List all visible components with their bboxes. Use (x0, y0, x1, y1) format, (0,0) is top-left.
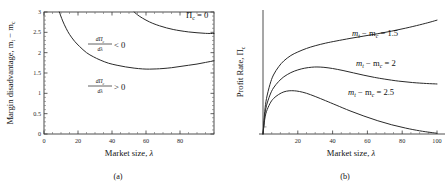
derivative-negative-relation: < 0 (114, 40, 125, 50)
panel-b-svg: 20406080100 Market size, λ Profit Rate, … (223, 0, 447, 189)
panel-a-x-tick-label: 20 (75, 137, 81, 144)
panel-a-y-axis-title: Margin disadvantage, mt − mc (5, 21, 16, 125)
panel-a-curves (59, 12, 214, 69)
panel-b-caption: (b) (340, 172, 350, 181)
panel-a-x-tick-label: 60 (143, 137, 149, 144)
derivative-negative-numerator: dΠc (96, 36, 105, 44)
panel-a-x-tick-label: 40 (109, 137, 115, 144)
panel-a-curve (59, 12, 214, 69)
derivative-negative-denominator: dλ (97, 46, 103, 52)
panel-b-x-axis-title: Market size, λ (327, 148, 376, 158)
panel-a-x-ticks (44, 12, 214, 134)
panel-b-x-ticks (263, 127, 437, 134)
panel-b-x-tick-label: 20 (295, 137, 301, 144)
panel-b-y-axis-title: Profit Rate, Πc (235, 46, 246, 97)
panel-b-x-tick-label: 100 (432, 137, 441, 144)
derivative-negative-label: dΠc dλ < 0 (88, 36, 125, 52)
panel-a-x-tick-labels: 020406080 (42, 137, 183, 144)
panel-b-curve (263, 20, 437, 134)
panel-b-curve (263, 67, 437, 134)
panel-a-x-tick-label: 80 (177, 137, 183, 144)
derivative-positive-label: dΠc dλ > 0 (88, 78, 125, 94)
panel-b-x-tick-label: 40 (330, 137, 336, 144)
derivative-positive-numerator: dΠc (96, 78, 105, 86)
panel-b-x-tick-label: 80 (399, 137, 405, 144)
derivative-positive-denominator: dλ (97, 88, 103, 94)
panel-a-x-tick-label: 0 (42, 137, 45, 144)
panel-a-frame (44, 12, 214, 134)
panel-a-svg: 020406080 00.511.522.53 Market size, λ M… (0, 0, 224, 189)
panel-a-y-tick-label: 0 (38, 130, 41, 137)
panel-b-x-tick-labels: 20406080100 (295, 137, 442, 144)
curve-label-3: mt − mc = 2.5 (348, 87, 394, 98)
panel-a: 020406080 00.511.522.53 Market size, λ M… (0, 0, 224, 189)
panel-b-curve (263, 91, 437, 134)
panel-a-y-tick-label: 3 (38, 8, 41, 15)
panel-a-y-tick-label: 1 (38, 89, 41, 96)
curve-label-2: mt − mc = 2 (356, 58, 396, 69)
panel-a-y-tick-label: 2 (38, 49, 41, 56)
panel-a-y-tick-labels: 00.511.522.53 (33, 8, 41, 137)
pi-zero-label: Πc = 0 (186, 10, 208, 21)
panel-b-x-tick-label: 60 (364, 137, 370, 144)
curve-label-1: mt − mc = 1.5 (352, 28, 398, 39)
figure-container: 020406080 00.511.522.53 Market size, λ M… (0, 0, 447, 189)
panel-a-y-tick-label: 0.5 (33, 110, 41, 117)
panel-a-y-ticks (44, 12, 214, 134)
panel-a-y-tick-label: 1.5 (33, 69, 41, 76)
panel-a-y-tick-label: 2.5 (33, 28, 41, 35)
panel-b-curves (263, 20, 437, 134)
panel-b-curve-labels: mt − mc = 1.5mt − mc = 2mt − mc = 2.5 (348, 28, 398, 98)
panel-a-x-axis-title: Market size, λ (105, 148, 154, 158)
panel-a-caption: (a) (113, 172, 122, 181)
derivative-positive-relation: > 0 (114, 82, 125, 92)
panel-b: 20406080100 Market size, λ Profit Rate, … (223, 0, 447, 189)
